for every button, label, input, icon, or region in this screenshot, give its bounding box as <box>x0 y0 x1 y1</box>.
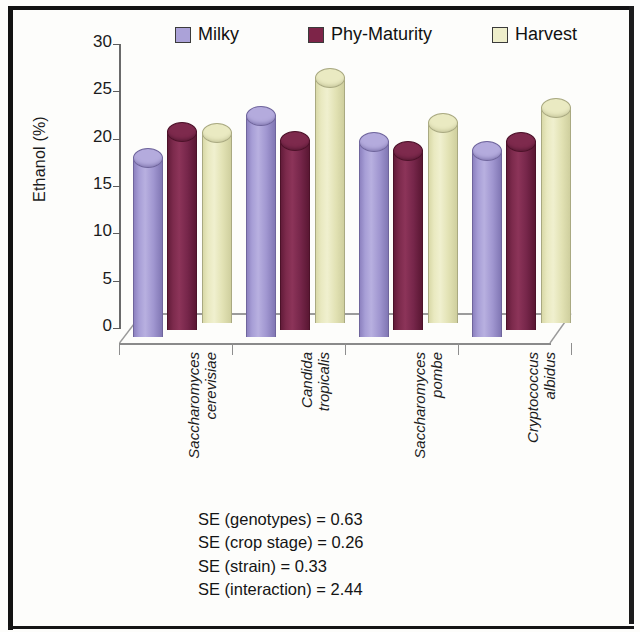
y-axis-tick-label: 30 <box>93 32 112 52</box>
x-axis-label-line: cerevisiae <box>202 352 219 512</box>
x-axis-label-line: pombe <box>428 352 445 512</box>
cylinder-body <box>472 150 502 337</box>
x-axis-label-saccharomyces-cerevisiae: Saccharomycescerevisiae <box>185 352 220 512</box>
bar-harvest <box>202 123 232 323</box>
cylinder-shape <box>246 106 276 337</box>
se-interaction: SE (interaction) = 2.44 <box>198 578 364 601</box>
x-axis-label-candida-tropicalis: Candidatropicalis <box>298 352 333 512</box>
y-axis-tick-label: 0 <box>103 316 112 336</box>
se-crop-stage: SE (crop stage) = 0.26 <box>198 531 364 554</box>
legend-swatch-harvest-icon <box>492 27 508 43</box>
cylinder-shape <box>202 123 232 323</box>
y-axis-tick-mark <box>113 139 120 140</box>
cylinder-body <box>428 122 458 323</box>
cylinder-body <box>133 157 163 337</box>
y-axis-tick-label: 10 <box>93 221 112 241</box>
cylinder-shape <box>541 98 571 323</box>
bar-phy-maturity <box>506 132 536 330</box>
y-axis-tick-mark <box>113 44 120 45</box>
bar-harvest <box>315 68 345 323</box>
legend-swatch-phy-maturity-icon <box>308 27 324 43</box>
x-axis-label-line: tropicalis <box>315 352 332 512</box>
figure-panel: Milky Phy-Maturity Harvest Ethanol (%) 3… <box>0 0 640 632</box>
legend-item-harvest: Harvest <box>492 24 577 45</box>
cylinder-shape <box>280 131 310 330</box>
category-separator <box>119 343 120 355</box>
cylinder-shape <box>393 141 423 330</box>
y-axis-tick-mark <box>113 186 120 187</box>
x-axis-label-line: Saccharomyces <box>411 352 428 459</box>
cylinder-cap <box>506 132 536 152</box>
x-axis-label-saccharomyces-pombe: Saccharomycespombe <box>411 352 446 512</box>
bar-harvest <box>428 113 458 323</box>
legend-label-phy-maturity: Phy-Maturity <box>331 24 432 45</box>
legend-label-milky: Milky <box>198 24 239 45</box>
y-axis-tick-label: 15 <box>93 174 112 194</box>
x-axis-label-line: albidus <box>541 352 558 512</box>
se-strain: SE (strain) = 0.33 <box>198 555 364 578</box>
bar-milky <box>133 148 163 337</box>
cylinder-cap <box>359 132 389 152</box>
cylinder-cap <box>280 131 310 151</box>
cylinder-shape <box>167 122 197 330</box>
cylinder-body <box>315 77 345 323</box>
bar-phy-maturity <box>280 131 310 330</box>
cylinder-body <box>167 131 197 330</box>
cylinder-cap <box>315 68 345 88</box>
x-axis-label-line: Cryptococcus <box>524 352 541 443</box>
y-axis-tick-mark <box>113 91 120 92</box>
y-axis-tick-mark <box>113 281 120 282</box>
category-separator <box>345 343 346 355</box>
se-genotypes: SE (genotypes) = 0.63 <box>198 508 364 531</box>
legend-label-harvest: Harvest <box>515 24 577 45</box>
legend-item-milky: Milky <box>175 24 239 45</box>
y-axis-tick-label: 25 <box>93 79 112 99</box>
cylinder-cap <box>472 141 502 161</box>
cylinder-body <box>246 115 276 337</box>
category-separator <box>571 343 572 355</box>
cylinder-body <box>359 141 389 337</box>
cylinder-shape <box>428 113 458 323</box>
chart-plot-area: Milky Phy-Maturity Harvest Ethanol (%) 3… <box>0 0 640 632</box>
cylinder-cap <box>133 148 163 168</box>
category-separator <box>458 343 459 355</box>
cylinder-cap <box>202 123 232 143</box>
se-annotations: SE (genotypes) = 0.63 SE (crop stage) = … <box>198 508 364 602</box>
cylinder-shape <box>315 68 345 323</box>
cylinder-body <box>541 107 571 323</box>
category-separator <box>232 343 233 355</box>
cylinder-cap <box>541 98 571 118</box>
floor-front-edge <box>119 343 551 345</box>
cylinder-body <box>280 140 310 330</box>
cylinder-cap <box>246 106 276 126</box>
cylinder-body <box>393 150 423 330</box>
legend-item-phy-maturity: Phy-Maturity <box>308 24 432 45</box>
bar-harvest <box>541 98 571 323</box>
legend-swatch-milky-icon <box>175 27 191 43</box>
x-axis-label-cryptococcus-albidus: Cryptococcusalbidus <box>524 352 559 512</box>
y-axis-tick-mark <box>113 233 120 234</box>
x-axis-label-line: Saccharomyces <box>185 352 202 459</box>
bar-phy-maturity <box>167 122 197 330</box>
cylinder-body <box>506 141 536 330</box>
x-axis-label-line: Candida <box>298 352 315 408</box>
cylinder-shape <box>133 148 163 337</box>
cylinder-shape <box>472 141 502 337</box>
chart-legend: Milky Phy-Maturity Harvest <box>175 24 615 48</box>
bar-milky <box>472 141 502 337</box>
bar-phy-maturity <box>393 141 423 330</box>
cylinder-shape <box>359 132 389 337</box>
y-axis-title: Ethanol (%) <box>31 59 49 259</box>
bar-milky <box>246 106 276 337</box>
y-axis-tick-label: 5 <box>103 269 112 289</box>
y-axis-tick-label: 20 <box>93 127 112 147</box>
cylinder-body <box>202 132 232 323</box>
cylinder-shape <box>506 132 536 330</box>
bar-milky <box>359 132 389 337</box>
